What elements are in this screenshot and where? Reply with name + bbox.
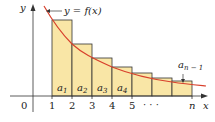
tick-label-3: 3	[89, 100, 95, 111]
tick-label-n: n	[189, 100, 195, 111]
tick-label-1: 1	[49, 100, 55, 111]
x-ticks	[52, 96, 192, 99]
y-axis-label: y	[19, 2, 26, 13]
ellipsis: · · ·	[143, 99, 159, 110]
x-axis-arrow-icon	[201, 94, 208, 99]
tick-label-5: 5	[129, 100, 135, 111]
curve-label: y = f(x)	[63, 5, 102, 16]
x-axis-label: x	[203, 100, 209, 111]
last-rect-label: an − 1	[178, 59, 203, 72]
diagram-canvas: y = f(x) y x 0 1 2 3 4 5 · · · n a1 a2 a…	[0, 0, 215, 122]
tick-label-2: 2	[69, 100, 75, 111]
origin-label: 0	[21, 100, 27, 111]
tick-label-4: 4	[109, 100, 115, 111]
y-axis-arrow-icon	[31, 4, 36, 11]
